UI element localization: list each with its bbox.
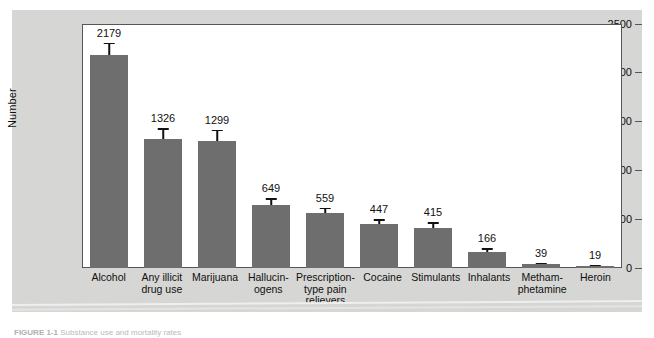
bar-value-label: 1326	[151, 113, 175, 124]
caption-text: Substance use and mortality rates	[60, 328, 181, 337]
x-axis-label-line: drug use	[136, 284, 187, 296]
x-axis-label-line: Stimulants	[410, 272, 461, 284]
bar-value-label: 1299	[205, 115, 229, 126]
bar[interactable]	[576, 266, 614, 268]
bar-group[interactable]: 415	[406, 24, 460, 268]
bar-value-label: 559	[316, 193, 334, 204]
y-tick-mark	[635, 72, 642, 73]
bar-group[interactable]: 1326	[136, 24, 190, 268]
y-axis-title: Number	[6, 88, 18, 128]
bar-group[interactable]: 649	[244, 24, 298, 268]
bar[interactable]	[144, 139, 182, 268]
x-axis-label-line: ogens	[243, 284, 294, 296]
bar[interactable]	[198, 141, 236, 268]
bar-group[interactable]: 19	[568, 24, 622, 268]
bar[interactable]	[90, 55, 128, 268]
caption-figure-number: FIGURE 1-1	[14, 328, 58, 337]
figure-panel: Number 05001000150020002500 217913261299…	[12, 10, 642, 312]
x-axis-label-line: Inhalants	[463, 272, 514, 284]
bar[interactable]	[522, 264, 560, 268]
x-axis-label-line: phetamine	[517, 284, 568, 296]
x-axis-label-line: Metham-	[517, 272, 568, 284]
bar-value-label: 649	[262, 183, 280, 194]
bar[interactable]	[414, 228, 452, 269]
y-tick-mark	[635, 268, 642, 269]
y-tick-mark	[635, 170, 642, 171]
bar-value-label: 2179	[97, 28, 121, 39]
y-tick-label: 0	[626, 262, 632, 273]
bar-value-label: 447	[370, 204, 388, 215]
figure-caption: FIGURE 1-1 Substance use and mortality r…	[14, 328, 634, 338]
bar-value-label: 19	[589, 250, 601, 261]
bar-value-label: 415	[424, 207, 442, 218]
bar[interactable]	[252, 205, 290, 268]
y-tick-mark	[635, 24, 642, 25]
bar-group[interactable]: 2179	[82, 24, 136, 268]
bar-group[interactable]: 166	[460, 24, 514, 268]
bar[interactable]	[468, 252, 506, 268]
y-tick-mark	[635, 219, 642, 220]
bar-group[interactable]: 559	[298, 24, 352, 268]
bar-value-label: 166	[478, 233, 496, 244]
bar-series: 2179132612996495594474151663919	[82, 24, 622, 268]
x-axis-label-line: Alcohol	[83, 272, 134, 284]
bar-group[interactable]: 447	[352, 24, 406, 268]
bar[interactable]	[360, 224, 398, 268]
bar[interactable]	[306, 213, 344, 268]
x-axis-label: Any illicitdrug use	[135, 272, 188, 307]
x-axis-label-line: Hallucin-	[243, 272, 294, 284]
bar-value-label: 39	[535, 248, 547, 259]
x-axis-label-line: Marijuana	[189, 272, 240, 284]
x-axis-label: Marijuana	[188, 272, 241, 307]
x-axis-label-line: Cocaine	[357, 272, 408, 284]
x-axis-label-line: relievers	[296, 295, 355, 307]
x-axis-label-line: Heroin	[570, 272, 621, 284]
y-tick-mark	[635, 121, 642, 122]
bar-group[interactable]: 1299	[190, 24, 244, 268]
x-axis-label-line: Prescription-	[296, 272, 355, 284]
x-axis-label-line: Any illicit	[136, 272, 187, 284]
x-axis-label: Alcohol	[82, 272, 135, 307]
bar-group[interactable]: 39	[514, 24, 568, 268]
